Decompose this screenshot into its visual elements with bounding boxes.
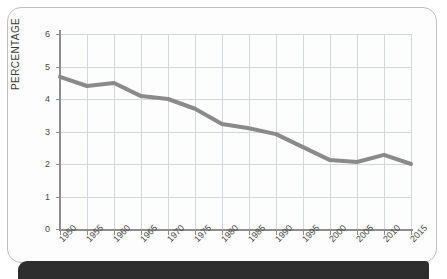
y-tick-label: 6: [32, 29, 50, 39]
y-tick-label: 0: [32, 224, 50, 234]
y-tick-label: 3: [32, 127, 50, 137]
bottom-bar: [18, 261, 429, 279]
chart-screenshot: PERCENTAGE 01234561950195519601965197019…: [0, 0, 447, 279]
series-line-percentage: [60, 77, 411, 164]
y-tick-mark: [56, 99, 60, 100]
y-tick-mark: [56, 34, 60, 35]
line-chart: PERCENTAGE 01234561950195519601965197019…: [0, 0, 447, 279]
y-tick-label: 2: [32, 159, 50, 169]
y-tick-mark: [56, 229, 60, 230]
y-tick-mark: [56, 197, 60, 198]
y-tick-label: 5: [32, 62, 50, 72]
y-tick-label: 4: [32, 94, 50, 104]
y-tick-mark: [56, 67, 60, 68]
y-tick-mark: [56, 132, 60, 133]
y-tick-mark: [56, 164, 60, 165]
y-tick-label: 1: [32, 192, 50, 202]
